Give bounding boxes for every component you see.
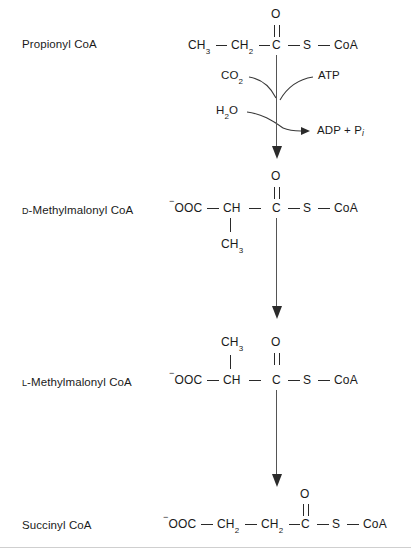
l-methylmalonyl-atom-s: S bbox=[303, 374, 311, 386]
succinyl-bond-4 bbox=[317, 524, 329, 525]
reaction-arrow-1-head bbox=[272, 146, 282, 159]
d-methylmalonyl-atom-ch: CH bbox=[223, 202, 241, 214]
succinyl-atom-carbonyl-c: C bbox=[301, 518, 310, 530]
reaction-arrow-1-shaft bbox=[276, 55, 277, 148]
l-methylmalonyl-branch-bond bbox=[230, 355, 231, 369]
cofactor-label-atp: ATP bbox=[318, 70, 340, 82]
l-methylmalonyl-bond-3 bbox=[288, 380, 300, 381]
l-methylmalonyl-atom-coa: CoA bbox=[334, 374, 358, 386]
propionyl-atom-s: S bbox=[303, 39, 311, 51]
pi-subscript: i bbox=[362, 128, 364, 138]
reaction-arrow-3-shaft bbox=[276, 390, 277, 477]
propionyl-bond-3 bbox=[288, 45, 300, 46]
succinyl-atom-coa: CoA bbox=[363, 518, 387, 530]
cofactor-label-water: H2O bbox=[216, 105, 238, 117]
compound-label-l-methylmalonyl: L-Methylmalonyl CoA bbox=[22, 377, 132, 389]
compound-label-succinyl: Succinyl CoA bbox=[22, 520, 92, 532]
stereo-prefix-d: D bbox=[22, 206, 29, 216]
carboxylate-charge: − bbox=[169, 368, 174, 378]
adp-arrow-head bbox=[301, 127, 310, 135]
l-methylmalonyl-atom-carbonyl-c: C bbox=[272, 374, 281, 386]
l-methylmalonyl-bond-4 bbox=[318, 380, 330, 381]
d-methylmalonyl-atom-coa: CoA bbox=[334, 202, 358, 214]
compound-label-propionyl-text: Propionyl CoA bbox=[22, 38, 97, 50]
cofactor-label-co2: CO2 bbox=[221, 70, 243, 82]
succinyl-atom-s: S bbox=[332, 518, 340, 530]
l-methylmalonyl-double-bond-right bbox=[279, 353, 280, 365]
succinyl-atom-ooc: −OOC bbox=[163, 518, 196, 530]
d-methylmalonyl-atom-s: S bbox=[303, 202, 311, 214]
reaction-arrow-2-head bbox=[272, 306, 282, 319]
d-methylmalonyl-carbonyl-oxygen: O bbox=[271, 170, 281, 182]
d-methylmalonyl-bond-2 bbox=[249, 208, 261, 209]
compound-label-d-methylmalonyl: D-Methylmalonyl CoA bbox=[22, 205, 133, 217]
l-methylmalonyl-bond-1 bbox=[207, 380, 219, 381]
carboxylate-charge: − bbox=[163, 512, 168, 522]
succinyl-double-bond-right bbox=[308, 504, 309, 516]
propionyl-atom-carbonyl-c: C bbox=[272, 39, 281, 51]
propionyl-atom-coa: CoA bbox=[334, 39, 358, 51]
l-methylmalonyl-bond-2 bbox=[249, 380, 261, 381]
propionyl-atom-ch3: CH3 bbox=[188, 39, 210, 51]
l-methylmalonyl-atom-ooc: −OOC bbox=[169, 374, 202, 386]
propionyl-atom-ch2: CH2 bbox=[231, 39, 253, 51]
cofactor-label-adp-pi: ADP + Pi bbox=[317, 125, 364, 137]
d-methylmalonyl-branch-ch3: CH3 bbox=[221, 238, 243, 250]
l-methylmalonyl-double-bond-left bbox=[274, 353, 275, 365]
l-methylmalonyl-carbonyl-oxygen: O bbox=[271, 336, 281, 348]
compound-label-l-methylmalonyl-text: -Methylmalonyl CoA bbox=[27, 376, 132, 388]
compound-label-propionyl: Propionyl CoA bbox=[22, 39, 97, 51]
propionyl-carbonyl-oxygen: O bbox=[271, 8, 281, 20]
propionyl-bond-1 bbox=[216, 45, 227, 46]
d-methylmalonyl-double-bond-right bbox=[279, 187, 280, 199]
compound-label-succinyl-text: Succinyl CoA bbox=[22, 519, 92, 531]
d-methylmalonyl-bond-4 bbox=[318, 208, 330, 209]
propionyl-double-bond-right bbox=[279, 25, 280, 37]
succinyl-double-bond-left bbox=[303, 504, 304, 516]
succinyl-atom-ch2-a: CH2 bbox=[217, 518, 239, 530]
propionyl-double-bond-left bbox=[274, 25, 275, 37]
d-methylmalonyl-bond-3 bbox=[288, 208, 300, 209]
bottom-divider bbox=[0, 547, 411, 548]
d-methylmalonyl-atom-ooc: −OOC bbox=[169, 202, 202, 214]
succinyl-bond-1 bbox=[201, 524, 213, 525]
d-methylmalonyl-branch-bond bbox=[230, 218, 231, 232]
compound-label-d-methylmalonyl-text: -Methylmalonyl CoA bbox=[29, 204, 134, 216]
propionyl-bond-4 bbox=[318, 45, 330, 46]
cofactor-curves bbox=[0, 0, 411, 553]
d-methylmalonyl-double-bond-left bbox=[274, 187, 275, 199]
succinyl-carbonyl-oxygen: O bbox=[300, 488, 310, 500]
l-methylmalonyl-branch-ch3: CH3 bbox=[221, 336, 243, 348]
pathway-diagram: Propionyl CoA O CH3 CH2 C S CoA CO2 ATP … bbox=[0, 0, 411, 553]
succinyl-bond-5 bbox=[347, 524, 359, 525]
succinyl-atom-ch2-b: CH2 bbox=[261, 518, 283, 530]
reaction-arrow-2-shaft bbox=[276, 218, 277, 308]
d-methylmalonyl-bond-1 bbox=[207, 208, 219, 209]
propionyl-bond-2 bbox=[259, 45, 270, 46]
succinyl-bond-2 bbox=[245, 524, 257, 525]
succinyl-bond-3 bbox=[289, 524, 300, 525]
carboxylate-charge: − bbox=[169, 196, 174, 206]
d-methylmalonyl-atom-carbonyl-c: C bbox=[272, 202, 281, 214]
reaction-arrow-3-head bbox=[272, 474, 282, 487]
l-methylmalonyl-atom-ch: CH bbox=[223, 374, 241, 386]
